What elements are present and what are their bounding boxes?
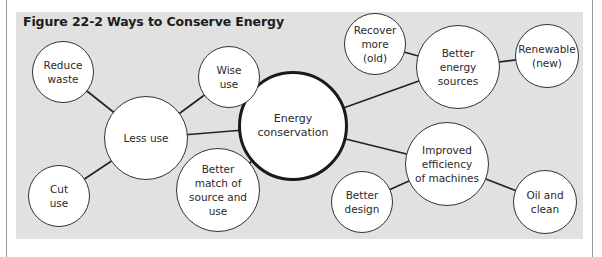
node-wise-use: Wise use: [198, 46, 260, 108]
node-less-use: Less use: [104, 96, 188, 180]
node-oil-and-clean: Oil and clean: [513, 170, 577, 234]
node-better-match: Better match of source and use: [176, 148, 260, 232]
node-better-design: Better design: [331, 171, 393, 233]
node-label: Better energy sources: [438, 46, 478, 88]
node-label: Better match of source and use: [189, 162, 247, 218]
node-label: Oil and clean: [526, 188, 563, 216]
node-label: Cut use: [50, 182, 69, 210]
node-improved-efficiency: Improved efficiency of machines: [405, 122, 489, 206]
node-reduce-waste: Reduce waste: [32, 41, 94, 103]
node-cut-use: Cut use: [28, 165, 90, 227]
node-label: Less use: [124, 131, 169, 145]
node-better-energy-sources: Better energy sources: [416, 25, 500, 109]
node-label: Reduce waste: [44, 58, 83, 86]
node-label: Wise use: [217, 63, 242, 91]
node-label: Better design: [345, 188, 380, 216]
node-renewable: Renewable (new): [515, 24, 579, 88]
node-label: Renewable (new): [518, 42, 575, 70]
node-label: Energy conservation: [257, 112, 328, 140]
node-recover-more: Recover more (old): [344, 13, 406, 75]
node-label: Recover more (old): [354, 23, 396, 65]
node-label: Improved efficiency of machines: [415, 143, 479, 185]
